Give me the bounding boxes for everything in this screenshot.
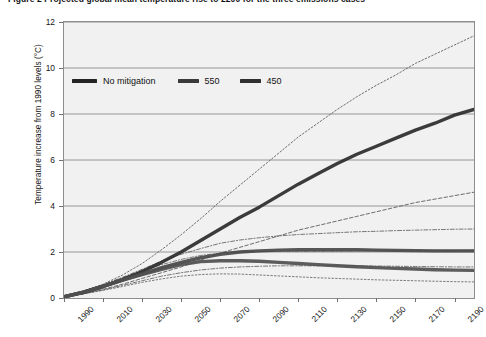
x-tick-mark — [415, 298, 416, 302]
x-tick-mark — [142, 298, 143, 302]
x-tick-mark — [455, 298, 456, 302]
legend-swatch-450 — [240, 79, 261, 82]
y-axis-title: Temperature increase from 1990 levels (°… — [34, 0, 43, 255]
x-tick-mark — [220, 298, 221, 302]
figure-caption: Figure 2 Projected global mean temperatu… — [8, 0, 365, 4]
y-tick-mark — [59, 160, 63, 161]
x-tick-mark — [103, 298, 104, 302]
x-tick-mark — [337, 298, 338, 302]
y-tick-mark — [59, 206, 63, 207]
chart-canvas — [64, 22, 474, 298]
y-tick-label: 10 — [33, 63, 55, 73]
y-tick-mark — [59, 114, 63, 115]
x-tick-mark — [259, 298, 260, 302]
chart-legend: No mitigation 550 450 — [72, 76, 282, 86]
y-tick-label: 8 — [33, 109, 55, 119]
x-tick-label: 2150 — [388, 304, 408, 324]
x-tick-label: 2110 — [310, 304, 330, 324]
y-tick-label: 4 — [33, 201, 55, 211]
x-tick-label: 2050 — [193, 304, 213, 324]
y-tick-label: 2 — [33, 247, 55, 257]
y-tick-mark — [59, 68, 63, 69]
y-tick-mark — [59, 252, 63, 253]
x-tick-label: 2170 — [427, 304, 447, 324]
x-tick-mark — [64, 298, 65, 302]
y-tick-label: 6 — [33, 155, 55, 165]
y-tick-label: 12 — [33, 17, 55, 27]
plot-area — [63, 21, 475, 299]
x-tick-label: 2070 — [232, 304, 252, 324]
figure-caption-strip: Figure 2 Projected global mean temperatu… — [0, 0, 478, 7]
legend-label-no-mitigation: No mitigation — [103, 76, 156, 86]
series-line — [64, 36, 474, 297]
x-tick-label: 1990 — [75, 304, 95, 324]
legend-item-450: 450 — [240, 76, 282, 86]
x-tick-label: 2030 — [154, 304, 174, 324]
legend-swatch-550 — [178, 79, 199, 82]
x-tick-label: 2090 — [271, 304, 291, 324]
legend-label-550: 550 — [205, 76, 220, 86]
x-tick-mark — [181, 298, 182, 302]
y-tick-mark — [59, 22, 63, 23]
legend-swatch-no-mitigation — [72, 79, 97, 82]
y-tick-label: 0 — [33, 293, 55, 303]
x-tick-mark — [298, 298, 299, 302]
legend-item-no-mitigation: No mitigation — [72, 76, 156, 86]
x-tick-label: 2190 — [466, 304, 486, 324]
x-tick-label: 2130 — [349, 304, 369, 324]
legend-label-450: 450 — [267, 76, 282, 86]
x-tick-mark — [376, 298, 377, 302]
y-tick-mark — [59, 298, 63, 299]
x-tick-label: 2010 — [115, 304, 135, 324]
legend-item-550: 550 — [178, 76, 220, 86]
